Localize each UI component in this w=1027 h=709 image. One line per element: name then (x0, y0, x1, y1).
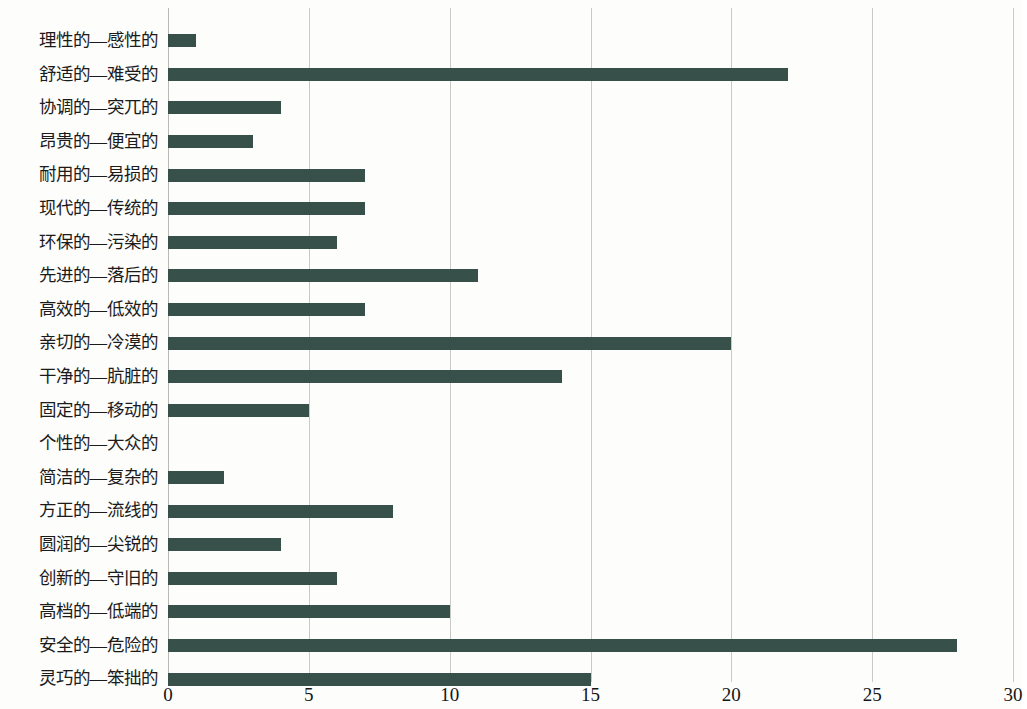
bar-row: 舒适的—难受的 (0, 58, 1021, 92)
bar-row: 干净的—肮脏的 (0, 360, 1021, 394)
category-label: 个性的—大众的 (0, 427, 158, 461)
bar-row: 理性的—感性的 (0, 24, 1021, 58)
x-tick-label: 5 (279, 684, 339, 706)
x-tick-label: 30 (983, 684, 1027, 706)
bar-row: 环保的—污染的 (0, 226, 1021, 260)
x-tick-label: 25 (842, 684, 902, 706)
category-label: 干净的—肮脏的 (0, 360, 158, 394)
bar-row: 高效的—低效的 (0, 293, 1021, 327)
x-tick-label: 20 (701, 684, 761, 706)
bar (168, 68, 788, 81)
bar (168, 34, 196, 47)
bar-row: 固定的—移动的 (0, 394, 1021, 428)
bar-row: 安全的—危险的 (0, 629, 1021, 663)
bar (168, 236, 337, 249)
category-label: 协调的—突兀的 (0, 91, 158, 125)
category-label: 圆润的—尖锐的 (0, 528, 158, 562)
category-label: 耐用的—易损的 (0, 158, 158, 192)
bar (168, 673, 591, 686)
category-label: 昂贵的—便宜的 (0, 125, 158, 159)
bar (168, 202, 365, 215)
bar-row: 方正的—流线的 (0, 494, 1021, 528)
bar-row: 创新的—守旧的 (0, 562, 1021, 596)
category-label: 灵巧的—笨拙的 (0, 662, 158, 696)
bar (168, 169, 365, 182)
bar-row: 圆润的—尖锐的 (0, 528, 1021, 562)
bar-row: 耐用的—易损的 (0, 158, 1021, 192)
bar (168, 370, 562, 383)
category-label: 高效的—低效的 (0, 293, 158, 327)
category-label: 先进的—落后的 (0, 259, 158, 293)
bar (168, 505, 393, 518)
x-tick-label: 10 (420, 684, 480, 706)
bar-row: 个性的—大众的 (0, 427, 1021, 461)
bar (168, 337, 731, 350)
category-label: 简洁的—复杂的 (0, 461, 158, 495)
category-label: 创新的—守旧的 (0, 562, 158, 596)
category-label: 方正的—流线的 (0, 494, 158, 528)
bar-row: 先进的—落后的 (0, 259, 1021, 293)
bar (168, 269, 478, 282)
category-label: 亲切的—冷漠的 (0, 326, 158, 360)
bar (168, 303, 365, 316)
bar (168, 538, 281, 551)
bar (168, 101, 281, 114)
category-label: 舒适的—难受的 (0, 58, 158, 92)
bar (168, 471, 224, 484)
x-tick-label: 0 (138, 684, 198, 706)
bar (168, 404, 309, 417)
category-label: 现代的—传统的 (0, 192, 158, 226)
category-label: 高档的—低端的 (0, 595, 158, 629)
x-tick-label: 15 (561, 684, 621, 706)
bar-row: 亲切的—冷漠的 (0, 326, 1021, 360)
bar (168, 605, 450, 618)
bar-row: 协调的—突兀的 (0, 91, 1021, 125)
bar-row: 简洁的—复杂的 (0, 461, 1021, 495)
category-label: 理性的—感性的 (0, 24, 158, 58)
bar (168, 572, 337, 585)
bar-row: 昂贵的—便宜的 (0, 125, 1021, 159)
bar-row: 高档的—低端的 (0, 595, 1021, 629)
bar-row: 现代的—传统的 (0, 192, 1021, 226)
category-label: 环保的—污染的 (0, 226, 158, 260)
category-label: 安全的—危险的 (0, 629, 158, 663)
bar (168, 135, 253, 148)
category-label: 固定的—移动的 (0, 394, 158, 428)
bar (168, 639, 957, 652)
